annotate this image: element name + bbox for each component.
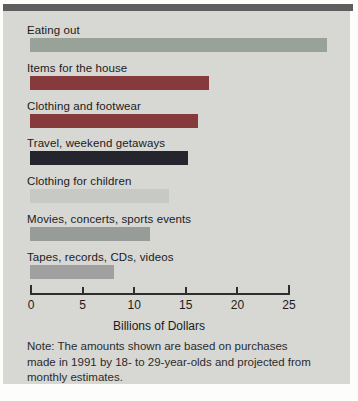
bar [30, 114, 198, 128]
axis-tick-label: 25 [274, 298, 304, 312]
axis-tick [288, 285, 290, 293]
note-text: Note: The amounts shown are based on pur… [27, 339, 315, 386]
category-label: Travel, weekend getaways [27, 137, 165, 149]
axis-tick [82, 287, 84, 293]
top-rule [3, 4, 353, 11]
bar [30, 265, 114, 279]
category-label: Clothing for children [27, 175, 131, 187]
axis-tick [133, 287, 135, 293]
axis-tick [185, 287, 187, 293]
bar [30, 189, 169, 203]
bar [30, 38, 327, 52]
axis-tick [30, 285, 32, 293]
axis-tick-label: 0 [16, 298, 46, 312]
axis-tick-label: 10 [119, 298, 149, 312]
scanned-chart-page: { "chart_data": { "type": "bar", "orient… [0, 0, 358, 401]
bar [30, 151, 188, 165]
category-label: Movies, concerts, sports events [27, 213, 191, 225]
bar [30, 227, 150, 241]
category-label: Eating out [27, 24, 80, 36]
axis-tick-label: 5 [68, 298, 98, 312]
category-label: Clothing and footwear [27, 100, 141, 112]
axis-tick-label: 15 [171, 298, 201, 312]
axis-tick [236, 287, 238, 293]
chart-panel: Eating outItems for the houseClothing an… [3, 11, 350, 384]
category-label: Tapes, records, CDs, videos [27, 251, 174, 263]
x-axis-line [30, 293, 290, 295]
bar [30, 76, 209, 90]
category-label: Items for the house [27, 62, 127, 74]
axis-tick-label: 20 [222, 298, 252, 312]
x-axis-title: Billions of Dollars [69, 319, 249, 333]
